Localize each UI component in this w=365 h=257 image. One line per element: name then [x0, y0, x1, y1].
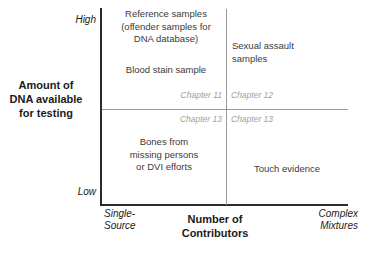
dna-quantity-contributors-diagram: Amount of DNA available for testing Numb…: [0, 0, 365, 257]
y-axis-high-label: High: [52, 14, 96, 26]
label-touch-evidence: Touch evidence: [254, 163, 354, 176]
label-reference-samples-line-1: Reference samples: [108, 8, 224, 21]
chapter-ref-top-left: Chapter 11: [152, 90, 222, 101]
y-axis-line: [100, 8, 102, 206]
horizontal-quadrant-divider: [102, 109, 348, 110]
x-axis-single-source-label: Single- Source: [104, 208, 174, 232]
y-axis-title: Amount of DNA available for testing: [0, 78, 92, 120]
label-bones-missing-persons-line-1: Bones from: [106, 136, 222, 149]
chapter-ref-bottom-right: Chapter 13: [231, 114, 301, 125]
label-reference-samples: Reference samples (offender samples for …: [108, 8, 224, 46]
x-axis-single-source-line-2: Source: [104, 220, 174, 232]
label-sexual-assault-samples-line-1: Sexual assault: [232, 40, 332, 53]
chapter-ref-bottom-left: Chapter 13: [152, 114, 222, 125]
y-axis-title-line-3: for testing: [0, 106, 92, 120]
x-axis-complex-mixtures-line-1: Complex: [296, 208, 358, 220]
label-reference-samples-line-2: (offender samples for: [108, 21, 224, 34]
y-axis-title-line-2: DNA available: [0, 92, 92, 106]
x-axis-complex-mixtures-line-2: Mixtures: [296, 220, 358, 232]
label-sexual-assault-samples: Sexual assault samples: [232, 40, 332, 65]
chapter-ref-top-right: Chapter 12: [231, 90, 301, 101]
x-axis-complex-mixtures-label: Complex Mixtures: [296, 208, 358, 232]
label-bones-missing-persons-line-3: or DVI efforts: [106, 161, 222, 174]
x-axis-line: [100, 204, 348, 206]
label-sexual-assault-samples-line-2: samples: [232, 53, 332, 66]
label-bones-missing-persons: Bones from missing persons or DVI effort…: [106, 136, 222, 174]
label-blood-stain-sample: Blood stain sample: [108, 64, 224, 77]
vertical-quadrant-divider: [226, 9, 227, 205]
y-axis-low-label: Low: [52, 186, 96, 198]
y-axis-title-line-1: Amount of: [0, 78, 92, 92]
x-axis-single-source-line-1: Single-: [104, 208, 174, 220]
label-reference-samples-line-3: DNA database): [108, 33, 224, 46]
label-bones-missing-persons-line-2: missing persons: [106, 149, 222, 162]
